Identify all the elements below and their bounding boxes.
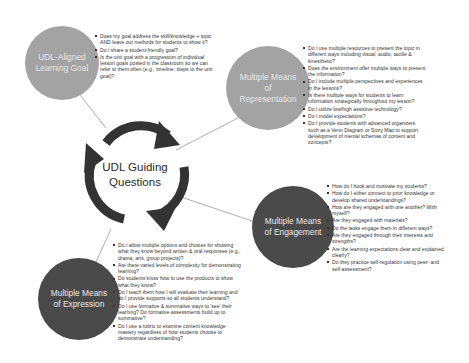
question-item: Does the environment offer multiple ways… bbox=[303, 65, 427, 78]
question-item: Do I provide students with advanced orga… bbox=[303, 120, 427, 145]
question-item: How do I hook and motivate my students? bbox=[327, 183, 449, 189]
node-representation: Multiple Means of Representation bbox=[226, 46, 310, 130]
node-learning-goal: UDL-Aligned Learning Goal bbox=[25, 26, 99, 100]
node-title-line: Multiple Means bbox=[265, 216, 322, 227]
node-title-line: Multiple Means bbox=[51, 288, 107, 299]
question-item: Are they engaged through their interests… bbox=[327, 232, 449, 245]
question-item: Is there multiple ways for students to l… bbox=[303, 92, 427, 105]
question-item: Does my goal address the skill/knowledge… bbox=[95, 33, 215, 46]
questions-expression: Do I allow multiple options and choices … bbox=[113, 242, 243, 342]
questions-engagement: How do I hook and motivate my students? … bbox=[327, 183, 449, 273]
question-item: How are they engaged with one another? W… bbox=[327, 204, 449, 217]
question-item: Do the tasks engage them in different wa… bbox=[327, 225, 449, 231]
question-item: Do I use formative & summative ways to '… bbox=[113, 303, 243, 322]
question-item: Do I include multiple perspectives and e… bbox=[303, 78, 427, 91]
node-title-line: of Expression bbox=[51, 299, 107, 310]
node-title-line: UDL-Aligned bbox=[36, 52, 89, 63]
question-item: Are there varied levels of complexity fo… bbox=[113, 262, 243, 275]
node-title-line: Learning Goal bbox=[36, 63, 89, 74]
question-item: Is the unit goal with a progression of i… bbox=[95, 54, 215, 79]
question-item: Do students know how to use the products… bbox=[113, 275, 243, 288]
node-expression: Multiple Means of Expression bbox=[38, 258, 120, 340]
hub-title-line2: Questions bbox=[80, 175, 190, 190]
question-item: Do I allow multiple options and choices … bbox=[113, 242, 243, 261]
question-item: How do I either connect to prior knowled… bbox=[327, 190, 449, 203]
questions-learning-goal: Does my goal address the skill/knowledge… bbox=[95, 33, 215, 80]
question-item: Do I use a rubric to examine content kno… bbox=[113, 323, 243, 342]
question-item: Are they engaged with materials? bbox=[327, 217, 449, 223]
node-title-line: Representation bbox=[240, 94, 297, 105]
question-item: Do I share a student-friendly goal? bbox=[95, 47, 215, 53]
question-item: Do I model expectations? bbox=[303, 113, 427, 119]
question-item: Do they practice self-regulation using p… bbox=[327, 259, 449, 272]
node-title-line: of bbox=[240, 83, 297, 94]
question-item: Do I use multiple resources to present t… bbox=[303, 45, 427, 64]
hub-title-line1: UDL Guiding bbox=[80, 160, 190, 175]
node-title-line: of Engagement bbox=[265, 227, 322, 238]
node-engagement: Multiple Means of Engagement bbox=[252, 186, 334, 268]
node-title-line: Multiple Means bbox=[240, 72, 297, 83]
hub-title: UDL Guiding Questions bbox=[80, 160, 190, 190]
question-item: Do I utilize low/high assistive technolo… bbox=[303, 106, 427, 112]
question-item: Do I teach them how I will evaluate thei… bbox=[113, 289, 243, 302]
questions-representation: Do I use multiple resources to present t… bbox=[303, 45, 427, 146]
question-item: Are the learning expectations clear and … bbox=[327, 246, 449, 259]
